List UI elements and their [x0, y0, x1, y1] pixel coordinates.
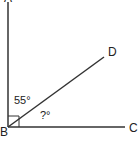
angle-label-dbc: ?°	[40, 109, 51, 121]
point-label-a: A	[4, 0, 12, 5]
point-label-c: C	[129, 121, 138, 135]
angle-label-abd: 55°	[14, 94, 31, 106]
point-label-d: D	[108, 45, 117, 59]
angle-diagram: A B C D 55° ?°	[0, 0, 139, 143]
point-label-b: B	[0, 125, 8, 139]
ray-BD	[8, 57, 104, 127]
